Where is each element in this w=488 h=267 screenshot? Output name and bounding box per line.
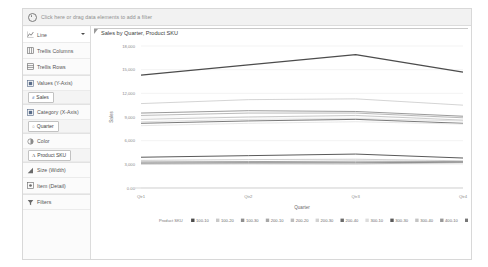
filter-hint-text: Click here or drag data elements to add … <box>41 14 152 20</box>
shelf-label: Values (Y-Axis) <box>37 80 73 86</box>
editor-body: Line Trellis Columns <box>23 26 471 259</box>
legend-swatch[interactable] <box>465 219 468 222</box>
series-line[interactable] <box>141 115 463 120</box>
x-axis-tick-label: Qtr3 <box>352 194 361 199</box>
chart-type-label: Line <box>37 32 47 38</box>
legend-swatch[interactable] <box>316 219 319 222</box>
legend-swatch[interactable] <box>390 219 393 222</box>
legend-label[interactable]: 300-10 <box>370 218 383 223</box>
shelf-filters[interactable]: Filters <box>23 194 90 210</box>
filter-icon <box>27 199 34 206</box>
category-icon <box>27 109 34 116</box>
shelf-label: Color <box>37 138 50 144</box>
viz-editor-window: Click here or drag data elements to add … <box>22 8 472 260</box>
field-pill-label: Quarter <box>37 123 54 129</box>
values-icon <box>27 80 34 87</box>
chart-panel: Sales by Quarter, Product SKU 0.003,0006… <box>91 26 471 259</box>
shelf-label: Filters <box>37 199 51 205</box>
legend-swatch[interactable] <box>291 219 294 222</box>
chevron-down-icon[interactable] <box>81 33 85 35</box>
x-axis-tick-label: Qtr2 <box>244 194 253 199</box>
trellis-columns-icon <box>27 47 34 54</box>
line-chart-icon <box>27 31 34 38</box>
legend-swatch[interactable] <box>241 219 244 222</box>
y-axis-tick-label: 15,000 <box>122 67 135 72</box>
series-line[interactable] <box>141 154 463 158</box>
filter-bar[interactable]: Click here or drag data elements to add … <box>23 9 471 26</box>
corner-flag-icon <box>94 29 98 34</box>
legend-label[interactable]: 200-10 <box>271 218 284 223</box>
trellis-rows-icon <box>27 63 34 70</box>
field-pill-sales[interactable]: # Sales <box>28 92 54 103</box>
shelf-label: Item (Detail) <box>37 183 66 189</box>
legend-swatch[interactable] <box>216 219 219 222</box>
legend-title: Product SKU <box>159 218 183 223</box>
y-axis-tick-label: 12,000 <box>122 91 135 96</box>
field-pill-label: Product SKU <box>37 152 66 158</box>
y-axis-tick-label: 0.00 <box>127 186 136 191</box>
legend-swatch[interactable] <box>415 219 418 222</box>
y-axis-tick-label: 18,000 <box>122 44 135 49</box>
shelf-trellis-rows[interactable]: Trellis Rows <box>23 59 90 75</box>
legend-swatch[interactable] <box>440 219 443 222</box>
dimension-glyph: A <box>32 153 35 158</box>
legend-label[interactable]: 100-20 <box>221 218 234 223</box>
legend-label[interactable]: 200-30 <box>321 218 334 223</box>
legend-label[interactable]: 300-40 <box>420 218 433 223</box>
legend-swatch[interactable] <box>191 219 194 222</box>
series-line[interactable] <box>141 55 463 76</box>
x-axis-title: Quarter <box>294 205 310 210</box>
shelf-color[interactable]: Color <box>23 133 90 149</box>
shelf-size-width[interactable]: Size (Width) <box>23 162 90 178</box>
field-pill-quarter[interactable]: ○ Quarter <box>28 121 59 132</box>
shelf-label: Category (X-Axis) <box>37 109 79 115</box>
legend-swatch[interactable] <box>266 219 269 222</box>
y-axis-tick-label: 9,000 <box>125 115 136 120</box>
dimension-glyph: ○ <box>32 124 35 129</box>
legend-label[interactable]: 100-10 <box>196 218 209 223</box>
legend-label[interactable]: 400-10 <box>445 218 458 223</box>
shelf-sidebar: Line Trellis Columns <box>23 26 91 259</box>
legend-swatch[interactable] <box>365 219 368 222</box>
shelf-trellis-columns[interactable]: Trellis Columns <box>23 43 90 59</box>
shelf-label: Size (Width) <box>37 167 66 173</box>
y-axis-tick-label: 6,000 <box>125 138 136 143</box>
pill-row-values[interactable]: # Sales <box>23 91 90 104</box>
x-axis-tick-label: Qtr1 <box>137 194 146 199</box>
y-axis-title: Sales <box>109 111 114 123</box>
gear-icon[interactable] <box>28 13 37 22</box>
legend-label[interactable]: 200-20 <box>296 218 309 223</box>
legend-label[interactable]: 100-30 <box>246 218 259 223</box>
plot-area-wrapper: 0.003,0006,0009,00012,00015,00018,000Sal… <box>91 38 467 259</box>
legend-label[interactable]: 200-40 <box>346 218 359 223</box>
field-pill-label: Sales <box>36 94 49 100</box>
shelf-category-x-axis[interactable]: Category (X-Axis) <box>23 104 90 120</box>
chart-type-selector[interactable]: Line <box>23 27 90 43</box>
shelf-label: Trellis Rows <box>37 64 66 70</box>
field-pill-product-sku[interactable]: A Product SKU <box>28 150 71 161</box>
shelf-values-y-axis[interactable]: Values (Y-Axis) <box>23 75 90 91</box>
shelf-label: Trellis Columns <box>37 48 73 54</box>
legend-label[interactable]: 300-30 <box>395 218 408 223</box>
series-line[interactable] <box>141 159 463 161</box>
shelf-item-detail[interactable]: Item (Detail) <box>23 178 90 194</box>
panel-divider <box>94 28 468 29</box>
line-chart[interactable]: 0.003,0006,0009,00012,00015,00018,000Sal… <box>91 38 468 258</box>
color-icon <box>27 138 34 145</box>
measure-glyph: # <box>32 95 34 100</box>
y-axis-tick-label: 3,000 <box>125 162 136 167</box>
item-icon <box>27 182 34 189</box>
series-line[interactable] <box>141 161 463 162</box>
size-icon <box>27 167 34 174</box>
x-axis-tick-label: Qtr4 <box>459 194 468 199</box>
legend-swatch[interactable] <box>341 219 344 222</box>
series-line[interactable] <box>141 99 463 105</box>
pill-row-color[interactable]: A Product SKU <box>23 149 90 162</box>
chart-title: Sales by Quarter, Product SKU <box>101 30 178 36</box>
pill-row-category[interactable]: ○ Quarter <box>23 120 90 133</box>
